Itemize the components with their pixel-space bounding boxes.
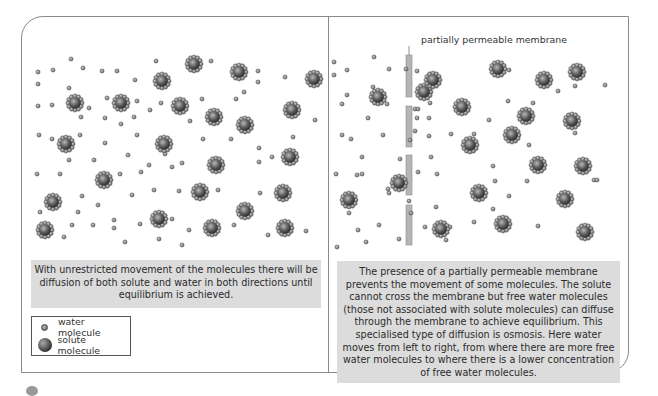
water-molecule: [200, 97, 204, 101]
water-molecule: [70, 223, 74, 227]
water-molecule: [35, 172, 39, 176]
solute-molecule-icon: [38, 338, 52, 352]
water-molecule: [573, 84, 577, 88]
water-molecule: [377, 223, 381, 227]
solute-molecule: [230, 63, 248, 81]
water-molecule: [135, 99, 139, 103]
water-molecule: [435, 172, 439, 176]
water-molecule: [256, 69, 260, 73]
solute-molecule: [66, 94, 84, 112]
water-molecule: [154, 59, 158, 63]
water-molecule: [493, 179, 497, 183]
water-molecule: [416, 107, 420, 111]
water-molecule: [472, 132, 476, 136]
solute-molecule: [95, 171, 113, 189]
water-molecule: [147, 163, 151, 167]
water-molecule: [487, 118, 491, 122]
water-molecule: [408, 138, 412, 142]
osmosis-panel: partially permeable membrane The presenc…: [329, 17, 628, 372]
solute-molecule: [517, 107, 535, 125]
solute-molecule: [203, 219, 221, 237]
water-molecule: [404, 67, 408, 71]
solute-molecule: [274, 184, 292, 202]
water-molecule: [434, 205, 438, 209]
solute-molecule: [568, 63, 586, 81]
water-molecule: [50, 137, 54, 141]
water-molecule: [531, 101, 535, 105]
water-molecule: [536, 224, 540, 228]
water-molecule: [201, 137, 205, 141]
water-molecule: [112, 218, 116, 222]
water-molecule: [603, 83, 607, 87]
water-molecule: [427, 134, 431, 138]
water-molecule: [266, 233, 270, 237]
water-molecule: [180, 161, 184, 165]
solute-molecule: [305, 70, 323, 88]
water-molecule: [409, 211, 413, 215]
water-molecule: [428, 101, 432, 105]
solute-molecule: [236, 116, 254, 134]
water-molecule: [340, 102, 344, 106]
solute-molecule: [276, 219, 294, 237]
solute-molecule: [461, 136, 479, 154]
water-molecule: [258, 191, 262, 195]
water-molecule: [170, 165, 174, 169]
solute-molecule: [150, 210, 168, 228]
membrane-label: partially permeable membrane: [421, 34, 567, 45]
solute-molecule: [36, 221, 54, 239]
water-molecule: [36, 70, 40, 74]
legend: water molecule solute molecule: [31, 316, 131, 356]
water-molecule: [51, 68, 55, 72]
water-molecule: [80, 194, 84, 198]
water-molecule: [132, 115, 136, 119]
water-molecule: [209, 59, 213, 63]
membrane-segment: [406, 55, 412, 97]
water-molecule: [525, 179, 529, 183]
water-molecule: [381, 133, 385, 137]
water-molecule: [472, 220, 476, 224]
water-molecule: [139, 170, 143, 174]
water-molecule: [180, 243, 184, 247]
solute-molecule: [207, 156, 225, 174]
solute-molecule: [57, 135, 75, 153]
water-molecule: [387, 67, 391, 71]
solute-molecule: [489, 60, 507, 78]
water-molecule: [67, 158, 71, 162]
legend-label-solute: solute molecule: [57, 334, 130, 356]
water-molecule: [69, 57, 73, 61]
water-molecule: [416, 170, 420, 174]
water-molecule: [188, 119, 192, 123]
water-molecule: [385, 102, 389, 106]
water-molecule: [491, 164, 495, 168]
water-molecule: [91, 223, 95, 227]
water-molecule: [355, 173, 359, 177]
water-molecule: [234, 97, 238, 101]
water-molecule: [386, 187, 390, 191]
water-molecule: [507, 194, 511, 198]
solute-molecule: [281, 148, 299, 166]
solute-molecule: [283, 101, 301, 119]
solute-molecule: [556, 190, 574, 208]
water-molecule: [256, 80, 260, 84]
water-molecule: [340, 133, 344, 137]
water-molecule: [349, 137, 353, 141]
water-molecule: [345, 68, 349, 72]
solute-molecule: [191, 183, 209, 201]
water-molecule: [103, 141, 107, 145]
water-molecule: [347, 211, 351, 215]
water-molecule: [413, 129, 417, 133]
solute-molecule: [576, 223, 594, 241]
water-molecule: [157, 237, 161, 241]
water-molecule: [334, 172, 338, 176]
water-molecule: [105, 96, 109, 100]
water-molecule: [177, 189, 181, 193]
water-molecule: [50, 103, 54, 107]
water-molecule: [527, 143, 531, 147]
water-molecule: [491, 207, 495, 211]
water-molecule: [372, 55, 376, 59]
water-molecule: [100, 69, 104, 73]
solute-molecule: [153, 72, 171, 90]
water-molecule: [283, 75, 287, 79]
water-molecule: [38, 210, 42, 214]
water-molecule: [270, 155, 274, 159]
